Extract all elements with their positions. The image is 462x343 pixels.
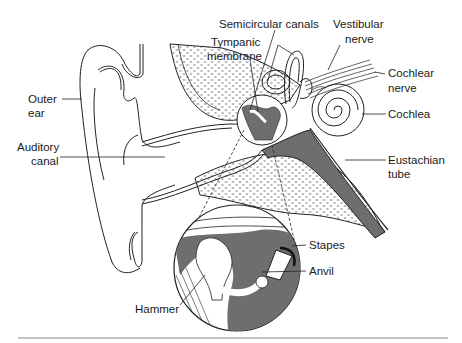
label-outer-ear-line2: ear bbox=[28, 107, 45, 119]
vestibular-nerve bbox=[305, 60, 378, 98]
middle-ear-small bbox=[237, 95, 287, 145]
label-stapes: Stapes bbox=[309, 239, 345, 251]
label-hammer: Hammer bbox=[135, 303, 179, 315]
label-cochlear-nerve-line2: nerve bbox=[388, 82, 417, 94]
label-outer-ear: Outer bbox=[28, 93, 57, 105]
label-cochlea: Cochlea bbox=[388, 108, 431, 120]
label-vestibular-nerve-line2: nerve bbox=[345, 33, 374, 45]
label-tympanic-membrane-line2: membrane bbox=[207, 50, 262, 62]
label-cochlear-nerve: Cochlear bbox=[388, 67, 434, 79]
ear-anatomy-diagram: Outer ear Auditory canal Semicircular ca… bbox=[0, 0, 462, 343]
outer-ear bbox=[80, 44, 180, 273]
cochlea bbox=[312, 84, 364, 136]
diagram-canvas: Outer ear Auditory canal Semicircular ca… bbox=[0, 0, 462, 343]
middle-ear-magnified bbox=[174, 205, 305, 340]
label-auditory-canal: Auditory bbox=[17, 141, 59, 153]
label-vestibular-nerve: Vestibular bbox=[333, 18, 384, 30]
label-eustachian-tube: Eustachian bbox=[388, 154, 445, 166]
label-tympanic-membrane: Tympanic bbox=[211, 36, 260, 48]
label-semicircular-canals: Semicircular canals bbox=[219, 18, 319, 30]
label-anvil: Anvil bbox=[309, 265, 334, 277]
label-auditory-canal-line2: canal bbox=[31, 155, 59, 167]
label-eustachian-tube-line2: tube bbox=[388, 168, 410, 180]
